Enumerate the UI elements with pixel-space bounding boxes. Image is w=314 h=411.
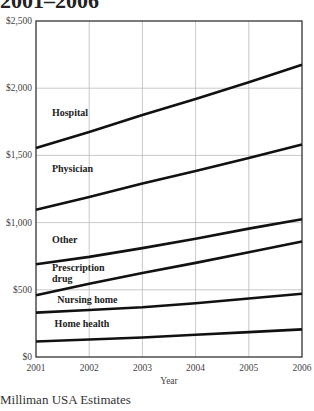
y-tick-label: $2,500 — [6, 16, 32, 26]
series-label: Nursing home — [57, 294, 118, 305]
y-tick-label: $500 — [13, 285, 32, 295]
series-label: Home health — [55, 318, 110, 329]
x-tick-label: 2003 — [133, 363, 152, 373]
series-line-physician — [36, 145, 302, 210]
source-note: Milliman USA Estimates — [0, 392, 131, 408]
y-tick-label: $1,000 — [6, 218, 32, 228]
line-chart: $0$500$1,000$1,500$2,000$2,5002001200220… — [0, 0, 314, 390]
x-axis-title: Year — [160, 376, 178, 386]
series-line-home-health — [36, 329, 302, 341]
x-tick-label: 2004 — [186, 363, 205, 373]
x-tick-label: 2006 — [293, 363, 312, 373]
series-label: drug — [52, 273, 73, 284]
series-label: Other — [52, 234, 78, 245]
series-label: Prescription — [52, 262, 105, 273]
series-label: Physician — [52, 163, 94, 174]
y-tick-label: $2,000 — [6, 83, 32, 93]
series-label: Hospital — [52, 107, 88, 118]
y-tick-label: $1,500 — [6, 150, 32, 160]
x-tick-label: 2002 — [80, 363, 99, 373]
plot-frame — [36, 21, 302, 357]
x-tick-label: 2001 — [27, 363, 46, 373]
y-tick-label: $0 — [23, 352, 33, 362]
x-tick-label: 2005 — [239, 363, 258, 373]
